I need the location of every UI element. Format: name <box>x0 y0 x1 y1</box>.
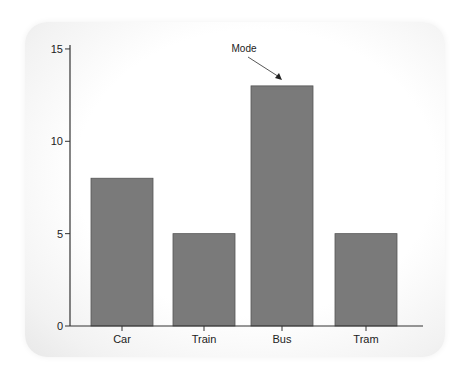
x-tick-label: Train <box>192 333 217 345</box>
bar-tram <box>335 234 397 326</box>
bar-car <box>91 178 153 326</box>
y-tick-label: 0 <box>57 320 63 332</box>
x-tick-label: Bus <box>273 333 292 345</box>
bar-chart: CarTrainBusTram051015Mode <box>0 0 468 375</box>
bar-bus <box>251 86 313 326</box>
y-tick-label: 10 <box>51 135 63 147</box>
y-tick-label: 5 <box>57 228 63 240</box>
bar-train <box>173 234 235 326</box>
y-tick-label: 15 <box>51 43 63 55</box>
x-tick-label: Car <box>113 333 131 345</box>
annotation-arrow <box>248 57 279 77</box>
arrow-head-icon <box>275 73 282 80</box>
x-tick-label: Tram <box>353 333 378 345</box>
annotation-label: Mode <box>231 43 256 54</box>
